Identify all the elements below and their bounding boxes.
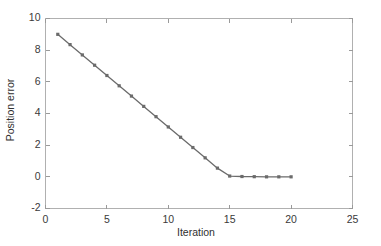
series-marker: [118, 84, 121, 87]
series-marker: [142, 105, 145, 108]
series-marker: [93, 64, 96, 67]
x-tick-label: 25: [347, 213, 359, 225]
y-tick-label: 4: [35, 106, 41, 118]
series-marker: [105, 74, 108, 77]
y-tick-label: 2: [35, 138, 41, 150]
x-axis-label: Iteration: [177, 226, 215, 238]
series-marker: [191, 146, 194, 149]
series-marker: [154, 115, 157, 118]
x-tick-label: 10: [162, 213, 174, 225]
series-marker: [130, 94, 133, 97]
series-marker: [240, 175, 243, 178]
x-tick-label: 15: [224, 213, 236, 225]
x-tick-label: 0: [43, 213, 49, 225]
series-marker: [179, 136, 182, 139]
series-marker: [216, 167, 219, 170]
y-tick-label: -2: [31, 201, 40, 213]
series-marker: [204, 156, 207, 159]
chart-canvas: 0510152025 -20246810 Iteration Position …: [0, 0, 381, 246]
series-marker: [228, 174, 231, 177]
chart-background: [0, 0, 381, 246]
y-tick-label: 8: [35, 43, 41, 55]
y-tick-label: 10: [29, 11, 41, 23]
x-tick-label: 5: [104, 213, 110, 225]
series-marker: [167, 125, 170, 128]
series-marker: [68, 43, 71, 46]
series-marker: [253, 175, 256, 178]
y-axis-label: Position error: [4, 78, 16, 141]
series-marker: [265, 175, 268, 178]
series-marker: [290, 175, 293, 178]
y-tick-label: 6: [35, 75, 41, 87]
series-marker: [81, 53, 84, 56]
figure-container: 0510152025 -20246810 Iteration Position …: [0, 0, 381, 246]
series-marker: [56, 33, 59, 36]
y-tick-label: 0: [35, 170, 41, 182]
series-marker: [277, 175, 280, 178]
x-tick-label: 20: [285, 213, 297, 225]
